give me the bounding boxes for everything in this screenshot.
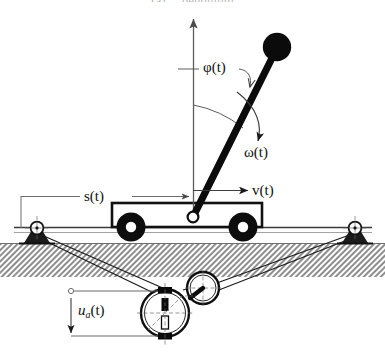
- idler-pulley-right: [337, 216, 373, 244]
- armature-voltage-label: ua(t): [78, 303, 105, 320]
- angular-velocity-label: ω(t): [244, 145, 268, 160]
- cart-wheel-right: [229, 213, 258, 242]
- pendulum-bob: [263, 33, 291, 61]
- cart-wheel-left: [117, 213, 146, 242]
- idler-pulley-left: [19, 216, 55, 244]
- figure-canvas: [0, 0, 385, 355]
- cart-velocity-label: v(t): [252, 183, 274, 198]
- pendulum-pivot: [188, 212, 199, 223]
- cart-position-label: s(t): [84, 189, 104, 204]
- inverted-pendulum-figure: (a) ... pendulum: [0, 0, 385, 355]
- armature-voltage-arg: (t): [90, 302, 104, 318]
- angle-label: φ(t): [203, 60, 226, 75]
- armature-voltage-symbol: u: [78, 302, 86, 318]
